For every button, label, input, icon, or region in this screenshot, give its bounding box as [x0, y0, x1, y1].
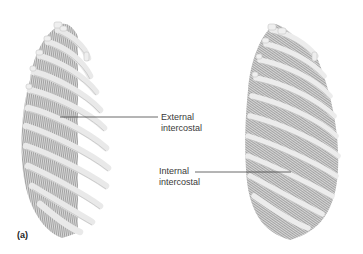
external-label-line2: intercostal [161, 123, 202, 134]
right-rib-cage [240, 20, 350, 250]
external-label-line1: External [161, 112, 202, 123]
internal-label-line1: Internal [159, 166, 200, 177]
panel-label: (a) [17, 230, 28, 240]
internal-label-line2: intercostal [159, 177, 200, 188]
intercostal-figure: External intercostal Internal intercosta… [0, 0, 363, 254]
left-rib-cage [18, 20, 108, 240]
external-intercostal-label: External intercostal [161, 112, 202, 134]
internal-intercostal-label: Internal intercostal [159, 166, 200, 188]
